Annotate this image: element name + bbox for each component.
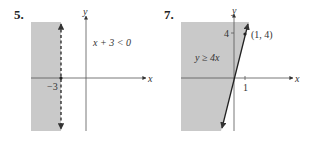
shaded-region-y-ge-4x [181, 22, 249, 131]
x-axis-label: x [147, 73, 153, 84]
tick-label-4: 4 [224, 28, 229, 39]
figure-7-number: 7. [164, 7, 174, 22]
point-label: (1, 4) [251, 29, 273, 41]
shaded-region-x-less-than-neg3 [31, 22, 61, 131]
figure-5: 5. x y −3 x + 3 < 0 [14, 6, 153, 131]
y-axis-label: y [231, 5, 237, 16]
x-axis-label: x [294, 73, 300, 84]
boundary-point [59, 76, 62, 79]
inequality-label: x + 3 < 0 [92, 37, 131, 48]
point-1-4 [243, 32, 246, 35]
tick-label-neg3: −3 [47, 81, 58, 92]
figure-7: 7. x y 4 1 (1, 4) y ≥ 4x [164, 5, 300, 131]
figure-5-number: 5. [14, 7, 24, 22]
inequality-label: y ≥ 4x [194, 52, 220, 63]
tick-label-1: 1 [243, 82, 248, 93]
figures-canvas: 5. x y −3 x + 3 < 0 7. x y 4 1 (1, 4) y … [0, 0, 311, 143]
y-axis-label: y [82, 6, 88, 17]
